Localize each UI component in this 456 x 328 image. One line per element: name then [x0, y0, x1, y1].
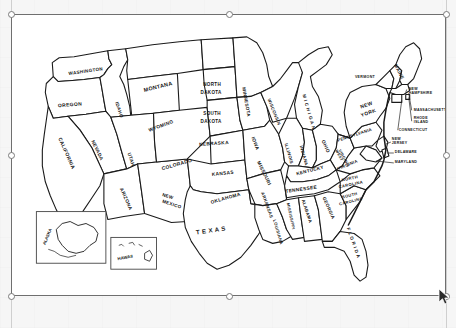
state-label-sd2: DAKOTA — [201, 119, 223, 124]
state-minnesota — [233, 37, 273, 98]
handle-top-left[interactable] — [8, 11, 15, 18]
state-montana — [126, 40, 203, 80]
handle-middle-right[interactable] — [443, 152, 450, 159]
state-label-sd: SOUTH — [203, 111, 221, 116]
us-states-outline-map: WASHINGTONOREGONIDAHOMONTANAWYOMINGNEVAD… — [12, 15, 445, 295]
state-label-nd2: DAKOTA — [201, 90, 223, 95]
us-map-canvas[interactable]: WASHINGTONOREGONIDAHOMONTANAWYOMINGNEVAD… — [12, 15, 445, 295]
alaska-inset: ALASKA — [36, 212, 106, 264]
state-wyoming — [128, 74, 180, 116]
state-connecticut — [392, 94, 402, 102]
callout-label-nh2: HAMPSHIRE — [409, 91, 433, 95]
handle-bottom-center[interactable] — [226, 293, 233, 300]
handle-middle-left[interactable] — [8, 152, 15, 159]
state-label-nd: NORTH — [203, 82, 221, 87]
callout-label-md: MARYLAND — [395, 160, 417, 164]
handle-top-right[interactable] — [443, 11, 450, 18]
callout-label-ma: MASSACHUSETTS — [414, 108, 445, 112]
state-colorado — [154, 107, 211, 162]
hawaii-inset: HAWAII — [111, 237, 157, 269]
handle-top-center[interactable] — [226, 11, 233, 18]
state-kansas — [210, 130, 245, 164]
state-northdakota — [201, 38, 235, 70]
callout-label-ri2: ISLAND — [414, 120, 429, 124]
state-label-vt: VERMONT — [355, 75, 376, 79]
callout-label-de: DELAWARE — [395, 150, 418, 154]
page-guide-right — [446, 0, 447, 328]
handle-bottom-right[interactable] — [443, 293, 450, 300]
callout-label-ct: CONNECTICUT — [399, 128, 428, 132]
callout-label-nj2: JERSEY — [392, 141, 408, 145]
selected-image-object[interactable]: WASHINGTONOREGONIDAHOMONTANAWYOMINGNEVAD… — [11, 14, 446, 296]
state-oregon — [45, 77, 106, 119]
handle-bottom-left[interactable] — [8, 293, 15, 300]
